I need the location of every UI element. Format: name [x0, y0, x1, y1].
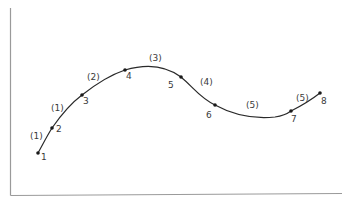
segment-label-4-5: (3)	[149, 53, 162, 63]
segment-label-2-3: (1)	[51, 103, 64, 113]
segment-label-6-7: (5)	[246, 100, 259, 110]
point-6	[213, 103, 217, 107]
curve-diagram: 1 2 3 4 5 6 7 8 (1) (1) (2) (3) (4) (5) …	[0, 0, 342, 200]
point-8	[318, 91, 322, 95]
point-label-6: 6	[206, 110, 212, 120]
point-label-3: 3	[83, 96, 89, 106]
point-7	[289, 109, 293, 113]
segment-label-1-2: (1)	[30, 131, 43, 141]
curve-line	[38, 66, 320, 153]
point-label-2: 2	[56, 124, 62, 134]
point-label-8: 8	[321, 96, 327, 106]
point-label-5: 5	[168, 80, 174, 90]
segment-label-7-8: (5)	[296, 93, 309, 103]
point-2	[50, 126, 54, 130]
segment-label-5-6: (4)	[200, 77, 213, 87]
segment-label-3-4: (2)	[87, 72, 100, 82]
point-label-1: 1	[41, 152, 47, 162]
point-label-4: 4	[126, 71, 132, 81]
point-label-7: 7	[291, 114, 297, 124]
point-1	[36, 151, 40, 155]
point-5	[179, 75, 183, 79]
x-axis	[11, 194, 342, 196]
